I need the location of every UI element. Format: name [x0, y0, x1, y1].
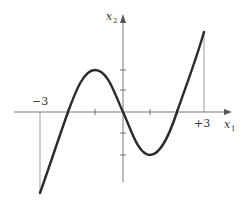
- svg-text:2: 2: [113, 17, 117, 25]
- x1-max-label: +3: [194, 117, 210, 130]
- x1-min-label: −3: [32, 95, 48, 108]
- x2-axis-arrow-icon: [120, 14, 126, 23]
- x1-axis-arrow-icon: [224, 109, 232, 115]
- trajectory-curve: [40, 32, 204, 193]
- svg-text:x: x: [224, 118, 231, 131]
- x2-axis-label: x 2: [106, 10, 117, 25]
- svg-text:x: x: [106, 10, 113, 23]
- svg-text:1: 1: [231, 125, 235, 133]
- x1-axis-label: x 1: [224, 118, 235, 133]
- phase-curve-figure: −3 +3 x 1 x 2: [0, 0, 245, 205]
